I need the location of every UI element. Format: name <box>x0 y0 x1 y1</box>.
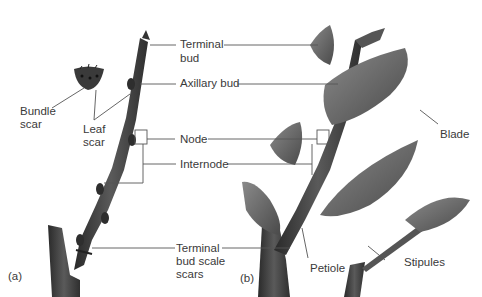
label-terminal-bud-scale-scars-3: scars <box>176 268 203 281</box>
label-bundle-scar-1: Bundle <box>20 105 56 118</box>
label-petiole: Petiole <box>310 262 345 275</box>
label-node: Node <box>180 133 208 146</box>
label-blade: Blade <box>440 128 469 141</box>
label-terminal-bud-1: Terminal <box>180 38 223 51</box>
label-stipules: Stipules <box>404 256 445 269</box>
botany-diagram: Terminal bud Axillary bud Bundle scar Le… <box>0 0 482 297</box>
label-terminal-bud-scale-scars-2: bud scale <box>176 255 225 268</box>
label-internode: Internode <box>180 158 229 171</box>
label-leaf-scar-1: Leaf <box>83 123 105 136</box>
label-terminal-bud-2: bud <box>180 52 199 65</box>
twig-a <box>48 30 150 297</box>
illustration <box>0 0 482 297</box>
panel-label-b: (b) <box>240 272 254 285</box>
label-axillary-bud: Axillary bud <box>180 77 239 90</box>
label-bundle-scar-2: scar <box>20 118 42 131</box>
label-terminal-bud-scale-scars-1: Terminal <box>176 242 219 255</box>
panel-label-a: (a) <box>8 270 22 283</box>
label-leaf-scar-2: scar <box>83 136 105 149</box>
